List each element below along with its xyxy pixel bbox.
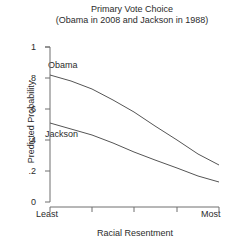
x-axis-ticks bbox=[50, 207, 219, 212]
plot-area bbox=[0, 0, 236, 251]
y-axis-ticks bbox=[45, 47, 50, 202]
chart-figure: Primary Vote Choice (Obama in 2008 and J… bbox=[0, 0, 236, 251]
series-line-obama bbox=[50, 75, 219, 165]
series-line-jackson bbox=[50, 123, 219, 182]
